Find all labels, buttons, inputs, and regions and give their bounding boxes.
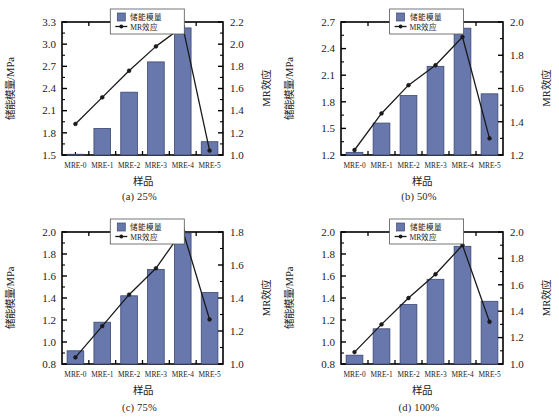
y-axis-tick-label-right: 1.8 [230,226,244,238]
bar [67,154,84,155]
bar [481,301,498,364]
y-axis-tick-label-right: 1.2 [230,127,244,139]
y-axis-tick-label-left: 2.0 [42,226,56,238]
y-axis-tick-label-right: 1.8 [510,252,524,264]
y-axis-tick-label-right: 1.6 [230,259,244,271]
chart-panel-c: 0.81.01.21.41.61.82.01.01.21.41.61.8MRE-… [0,210,279,419]
y-axis-tick-label-left: 3.0 [42,38,56,50]
y-axis-tick-label-left: 2.4 [42,82,56,94]
bar [427,66,444,155]
y-axis-tick-label-left: 1.8 [42,127,56,139]
line-marker [434,272,438,276]
legend-label-bar: 储能模量 [410,12,442,22]
legend: 储能模量MR效应 [110,219,184,244]
y-axis-tick-label-left: 1.8 [321,96,335,108]
panel-caption-c: (c) 75% [0,402,279,413]
line-marker [461,35,465,39]
y-axis-tick-label-right: 1.4 [510,305,524,317]
chart-svg-c: 0.81.01.21.41.61.82.01.01.21.41.61.8MRE-… [0,210,279,419]
legend-marker-line [119,25,123,29]
y-axis-title-left: 储能模量/MPa [4,57,16,120]
y-axis-tick-label-right: 1.0 [230,358,244,370]
bar [201,293,218,365]
y-axis-title-left: 储能模量/MPa [283,57,295,120]
y-axis-tick-label-right: 1.6 [230,82,244,94]
plot-area-b: 1.21.51.82.12.42.71.21.41.61.82.0MRE-0MR… [279,0,559,210]
legend-label-bar: 储能模量 [130,12,162,22]
x-axis-tick-label: MRE-2 [397,161,419,170]
y-axis-tick-label-right: 1.2 [510,331,524,343]
line-marker [154,266,158,270]
bar [148,269,165,364]
legend-label-line: MR效应 [410,22,438,32]
bar [400,96,417,155]
x-axis-tick-label: MRE-5 [478,370,500,379]
legend-label-line: MR效应 [410,232,438,242]
y-axis-tick-label-left: 2.0 [321,226,335,238]
y-axis-tick-label-left: 2.1 [321,69,335,81]
bar [454,28,471,155]
bar [346,152,363,155]
line-marker [434,63,438,67]
plot-area-d: 0.81.01.21.41.61.82.01.01.21.41.61.82.0M… [279,210,559,419]
x-axis-tick-label: MRE-1 [370,161,392,170]
y-axis-tick-label-left: 1.0 [321,336,335,348]
legend: 储能模量MR效应 [390,9,464,34]
line-marker [353,148,357,152]
y-axis-tick-label-left: 1.8 [321,248,335,260]
x-axis-tick-label: MRE-5 [198,370,220,379]
y-axis-tick-label-left: 1.2 [321,149,335,161]
legend-marker-line [119,235,123,239]
y-axis-tick-label-left: 1.4 [42,292,56,304]
x-axis-tick-label: MRE-4 [451,370,473,379]
chart-panel-a: 1.51.82.12.42.73.03.31.01.21.41.61.82.02… [0,0,279,210]
x-axis-tick-label: MRE-1 [91,370,113,379]
bar [454,246,471,364]
bar [427,279,444,364]
chart-panel-d: 0.81.01.21.41.61.82.01.01.21.41.61.82.0M… [279,210,559,419]
chart-svg-a: 1.51.82.12.42.73.03.31.01.21.41.61.82.02… [0,0,279,210]
legend: 储能模量MR效应 [390,219,464,244]
line-marker [74,122,78,126]
legend-label-line: MR效应 [130,232,158,242]
y-axis-tick-label-left: 2.1 [42,104,56,116]
y-axis-tick-label-left: 2.7 [42,60,56,72]
legend-swatch-bar [397,13,405,21]
y-axis-title-right: MR效应 [540,69,552,106]
y-axis-tick-label-right: 2.0 [510,16,524,28]
y-axis-tick-label-left: 1.4 [321,292,335,304]
x-axis-title: 样品 [412,175,432,187]
line-marker [154,44,158,48]
y-axis-tick-label-right: 1.8 [230,60,244,72]
line-marker [380,112,384,116]
y-axis-tick-label-right: 1.6 [510,82,524,94]
bar [174,28,191,155]
x-axis-tick-label: MRE-0 [64,370,86,379]
bar [148,62,165,155]
y-axis-title-right: MR效应 [260,69,272,106]
y-axis-tick-label-left: 3.3 [42,16,56,28]
x-axis-title: 样品 [412,384,432,396]
x-axis-tick-label: MRE-4 [451,161,473,170]
y-axis-tick-label-left: 1.0 [42,336,56,348]
line-marker [353,350,357,354]
y-axis-tick-label-right: 1.8 [510,49,524,61]
y-axis-tick-label-left: 1.2 [321,314,335,326]
bar [373,123,390,155]
plot-area-a: 1.51.82.12.42.73.03.31.01.21.41.61.82.02… [0,0,279,210]
x-axis-tick-label: MRE-3 [424,370,446,379]
chart-svg-d: 0.81.01.21.41.61.82.01.01.21.41.61.82.0M… [279,210,559,419]
y-axis-title-left: 储能模量/MPa [283,266,295,329]
y-axis-tick-label-right: 2.0 [510,226,524,238]
legend-label-line: MR效应 [130,22,158,32]
bar [121,296,138,364]
x-axis-tick-label: MRE-3 [424,161,446,170]
y-axis-tick-label-right: 1.4 [230,292,244,304]
line-marker [100,95,104,99]
y-axis-tick-label-right: 1.6 [510,279,524,291]
bar [481,94,498,155]
line-marker [208,149,212,153]
line-marker [488,320,492,324]
y-axis-tick-label-left: 1.5 [321,122,335,134]
line-marker [208,318,212,322]
